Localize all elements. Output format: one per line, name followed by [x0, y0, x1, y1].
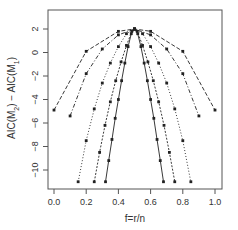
data-point	[109, 100, 112, 103]
data-point	[93, 180, 96, 183]
data-point	[117, 33, 120, 36]
data-point	[101, 48, 104, 51]
y-tick-label: −4	[30, 94, 40, 104]
data-point	[198, 115, 201, 118]
data-point	[156, 138, 159, 141]
data-point	[125, 32, 128, 35]
data-point	[127, 45, 130, 48]
y-tick-label: −8	[30, 141, 40, 151]
data-point	[114, 79, 117, 82]
x-tick-label: 0.2	[80, 197, 93, 207]
y-axis-label: AIC(M2) − AIC(M1)	[6, 57, 20, 139]
data-point	[104, 124, 107, 127]
data-point	[107, 159, 110, 162]
series-n-10	[69, 28, 201, 118]
data-point	[93, 108, 96, 111]
data-point	[146, 79, 149, 82]
data-point	[104, 180, 107, 183]
data-point	[85, 72, 88, 75]
y-tick-label: −6	[30, 118, 40, 128]
data-point	[149, 30, 152, 33]
data-point	[147, 61, 150, 64]
data-point	[120, 61, 123, 64]
data-point	[149, 45, 152, 48]
data-point	[165, 48, 168, 51]
data-point	[101, 82, 104, 85]
data-point	[189, 180, 192, 183]
data-point	[181, 50, 184, 53]
data-point	[136, 32, 139, 35]
data-point	[149, 33, 152, 36]
data-point	[85, 50, 88, 53]
data-point	[157, 100, 160, 103]
x-tick-label: 1.0	[209, 197, 222, 207]
x-tick-label: 0.8	[177, 197, 190, 207]
x-axis-label: f=r/n	[125, 213, 145, 224]
data-point	[140, 45, 143, 48]
data-point	[109, 62, 112, 65]
data-point	[117, 98, 120, 101]
series-n-50	[104, 28, 165, 184]
data-point	[77, 180, 80, 183]
data-point	[163, 124, 166, 127]
series-line	[106, 29, 164, 182]
data-point	[162, 180, 165, 183]
data-point	[152, 117, 155, 120]
y-tick-label: −2	[30, 71, 40, 81]
series-line	[54, 29, 215, 110]
x-tick-label: 0.0	[48, 197, 61, 207]
data-point	[165, 82, 168, 85]
series-n-30	[93, 28, 176, 184]
y-tick-label: 0	[30, 50, 40, 55]
data-point	[157, 62, 160, 65]
data-point	[85, 139, 88, 142]
series-line	[78, 29, 191, 182]
data-point	[159, 159, 162, 162]
data-point	[181, 72, 184, 75]
data-point	[141, 32, 144, 35]
data-point	[69, 115, 72, 118]
axes: 0.00.20.40.60.81.020−2−4−6−8−10	[30, 26, 221, 207]
data-point	[181, 139, 184, 142]
data-point	[173, 180, 176, 183]
data-point	[143, 62, 146, 65]
series-line	[94, 29, 175, 182]
plot-frame	[48, 10, 222, 189]
data-point	[98, 151, 101, 154]
data-point	[120, 79, 123, 82]
series-n-20	[77, 28, 193, 184]
y-tick-label: −10	[30, 162, 40, 177]
data-point	[130, 32, 133, 35]
x-tick-label: 0.4	[112, 197, 125, 207]
plot-border	[48, 10, 222, 189]
data-point	[53, 109, 56, 112]
y-tick-label: 2	[30, 26, 40, 31]
data-point	[117, 45, 120, 48]
data-point	[168, 151, 171, 154]
x-tick-label: 0.6	[144, 197, 157, 207]
series-layer	[53, 28, 217, 184]
data-point	[149, 98, 152, 101]
aic-difference-chart: 0.00.20.40.60.81.020−2−4−6−8−10 f=r/n AI…	[0, 0, 238, 230]
data-point	[173, 108, 176, 111]
data-point	[133, 28, 136, 31]
series-line	[70, 29, 199, 116]
series-n-5	[53, 28, 217, 112]
data-point	[114, 117, 117, 120]
data-point	[111, 138, 114, 141]
data-point	[214, 109, 217, 112]
data-point	[152, 79, 155, 82]
data-point	[123, 62, 126, 65]
data-point	[117, 30, 120, 33]
